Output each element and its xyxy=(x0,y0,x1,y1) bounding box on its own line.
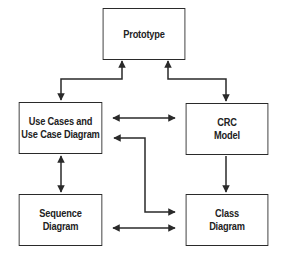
node-crc-label-line1: CRC xyxy=(217,116,236,129)
node-prototype: Prototype xyxy=(103,8,186,60)
node-sequence-diagram: Sequence Diagram xyxy=(19,194,103,246)
node-prototype-label: Prototype xyxy=(123,28,165,41)
node-class-diagram: Class Diagram xyxy=(186,194,269,246)
node-use-cases-label-line1: Use Cases and xyxy=(29,115,92,128)
node-class-label-line1: Class xyxy=(215,207,239,220)
diagram-canvas: Prototype Use Cases and Use Case Diagram… xyxy=(0,0,283,254)
node-sequence-label-line2: Diagram xyxy=(43,220,79,233)
node-use-cases-label-line2: Use Case Diagram xyxy=(21,128,99,141)
edge-use-cases-class xyxy=(114,138,175,212)
node-crc-model: CRC Model xyxy=(186,103,269,155)
node-class-label-line2: Diagram xyxy=(209,220,245,233)
node-sequence-label-line1: Sequence xyxy=(39,207,81,220)
edge-prototype-crc xyxy=(168,61,226,101)
node-crc-label-line2: Model xyxy=(214,129,240,142)
node-use-cases: Use Cases and Use Case Diagram xyxy=(19,102,103,154)
edge-prototype-use-cases xyxy=(61,61,122,100)
